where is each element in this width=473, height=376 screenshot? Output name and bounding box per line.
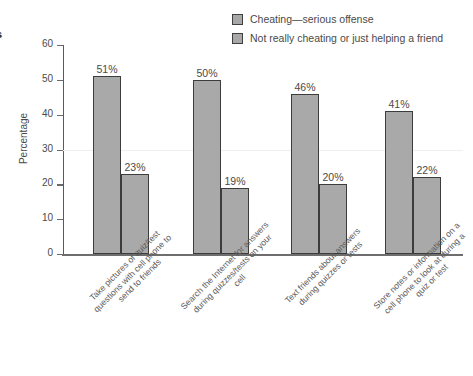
bar-value-label: 20%	[322, 171, 343, 183]
legend-item-1: Not really cheating or just helping a fr…	[232, 30, 473, 46]
y-tick-label: 60	[42, 38, 53, 49]
bar-value-label: 46%	[294, 81, 315, 93]
y-tick-label: 40	[42, 108, 53, 119]
y-tick-label: 30	[42, 143, 53, 154]
y-tick-10: 10	[57, 219, 63, 220]
y-tick-60: 60	[57, 45, 63, 46]
chart-legend: Cheating—serious offense Not really chea…	[232, 11, 473, 49]
y-tick-label: 0	[47, 247, 53, 258]
y-tick-label: 20	[42, 177, 53, 188]
bar-value-label: 19%	[224, 175, 245, 187]
y-tick-40: 40	[57, 115, 63, 116]
y-tick-label: 10	[42, 212, 53, 223]
bar-value-label: 50%	[196, 67, 217, 79]
bar-0-0: 51%	[93, 76, 121, 254]
legend-label-0: Cheating—serious offense	[250, 13, 374, 25]
bar-value-label: 23%	[124, 161, 145, 173]
y-tick-0: 0	[57, 254, 63, 255]
bar-value-label: 22%	[416, 164, 437, 176]
legend-swatch-icon	[232, 14, 243, 25]
bar-2-0: 46%	[291, 94, 319, 254]
bar-value-label: 41%	[388, 98, 409, 110]
bar-3-0: 41%	[385, 111, 413, 254]
legend-swatch-icon	[232, 33, 243, 44]
y-tick-20: 20	[57, 184, 63, 185]
legend-item-0: Cheating—serious offense	[232, 11, 473, 27]
figure-container: s Cheating—serious offense Not really ch…	[0, 0, 473, 376]
cropped-caption-text: s	[0, 28, 10, 41]
legend-label-1: Not really cheating or just helping a fr…	[250, 32, 443, 44]
bar-value-label: 51%	[96, 63, 117, 75]
y-axis-title: Percentage	[18, 99, 29, 179]
y-tick-label: 50	[42, 73, 53, 84]
y-tick-50: 50	[57, 80, 63, 81]
bar-1-0: 50%	[193, 80, 221, 254]
